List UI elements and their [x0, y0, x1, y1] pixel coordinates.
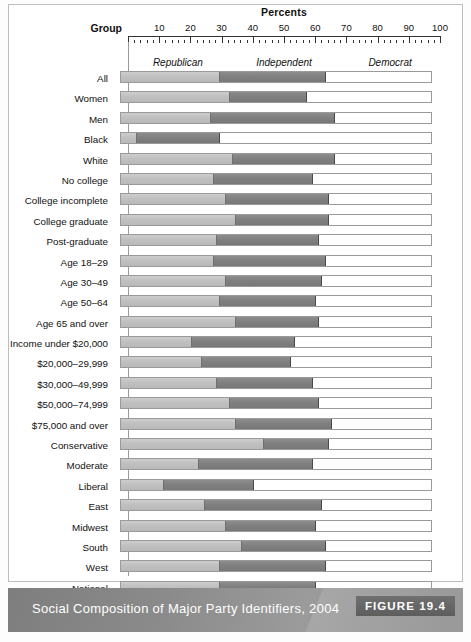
chart-row: Moderate: [0, 457, 455, 477]
stacked-bar: [120, 153, 432, 165]
ruler-tick-38: [247, 40, 248, 43]
ruler-tick-12: [165, 40, 166, 43]
x-tick-label-50: 50: [279, 22, 290, 33]
ruler-tick-16: [178, 40, 179, 43]
bar-segment-republican: [121, 378, 217, 388]
bar-segment-democrat: [220, 133, 431, 143]
bar-segment-republican: [121, 480, 164, 490]
bar-segment-republican: [121, 317, 236, 327]
x-tick-label-10: 10: [154, 22, 165, 33]
bar-segment-independent: [205, 500, 323, 510]
bar-segment-independent: [202, 357, 292, 367]
bar-segment-democrat: [335, 113, 431, 123]
x-tick-label-100: 100: [432, 22, 448, 33]
ruler-tick-18: [184, 40, 185, 43]
chart-row: Income under $20,000: [0, 335, 455, 355]
bar-segment-independent: [217, 378, 313, 388]
chart-row: $30,000–49,999: [0, 376, 455, 396]
bar-segment-democrat: [292, 357, 432, 367]
ruler-tick-14: [172, 40, 173, 43]
ruler-tick-94: [421, 40, 422, 43]
ruler-tick-20: [190, 37, 191, 43]
legend-label-republican: Republican: [153, 57, 203, 68]
ruler-tick-30: [222, 37, 223, 43]
ruler-tick-70: [346, 37, 347, 43]
row-label-23: South: [82, 542, 108, 553]
ruler-tick-6: [147, 40, 148, 43]
ruler-tick-62: [321, 40, 322, 43]
stacked-bar: [120, 91, 432, 103]
stacked-bar: [120, 336, 432, 348]
bar-segment-republican: [121, 561, 220, 571]
bar-segment-democrat: [307, 92, 431, 102]
bar-segment-republican: [121, 521, 226, 531]
chart-row: Black: [0, 131, 455, 151]
ruler-tick-10: [159, 37, 160, 43]
bar-segment-republican: [121, 215, 236, 225]
x-tick-label-60: 60: [310, 22, 321, 33]
row-label-13: Income under $20,000: [10, 338, 108, 349]
row-label-9: Age 18–29: [61, 257, 108, 268]
ruler-tick-64: [328, 40, 329, 43]
stacked-bar: [120, 418, 432, 430]
bar-segment-independent: [220, 561, 325, 571]
bar-segment-republican: [121, 276, 226, 286]
row-label-16: $50,000–74,999: [37, 399, 108, 410]
stacked-bar: [120, 132, 432, 144]
row-label-22: Midwest: [72, 522, 108, 533]
bar-segment-republican: [121, 439, 264, 449]
bar-segment-republican: [121, 256, 214, 266]
ruler-tick-34: [234, 40, 235, 43]
row-label-21: East: [88, 501, 108, 512]
ruler-tick-72: [353, 40, 354, 43]
stacked-bar: [120, 458, 432, 470]
chart-row: Women: [0, 90, 455, 110]
ruler-tick-56: [303, 40, 304, 43]
bar-segment-republican: [121, 113, 211, 123]
bar-segment-independent: [192, 337, 294, 347]
bar-segment-republican: [121, 357, 202, 367]
bar-segment-independent: [226, 521, 316, 531]
row-label-15: $30,000–49,999: [37, 379, 108, 390]
bar-segment-democrat: [335, 154, 431, 164]
ruler-tick-96: [428, 40, 429, 43]
chart-row: White: [0, 152, 455, 172]
chart-row: Age 50–64: [0, 294, 455, 314]
ruler-tick-36: [240, 40, 241, 43]
bar-segment-republican: [121, 419, 236, 429]
stacked-bar: [120, 397, 432, 409]
bar-segment-democrat: [313, 378, 431, 388]
ruler-tick-90: [409, 37, 410, 43]
axis-title-percents: Percents: [128, 6, 440, 18]
bar-segment-independent: [164, 480, 254, 490]
row-label-19: Moderate: [67, 460, 108, 471]
bar-segment-republican: [121, 92, 230, 102]
bar-segment-democrat: [313, 459, 431, 469]
ruler-tick-98: [434, 40, 435, 43]
bar-segment-democrat: [319, 235, 431, 245]
chart-row: $20,000–29,999: [0, 355, 455, 375]
stacked-bar: [120, 356, 432, 368]
figure-number-badge: FIGURE 19.4: [356, 596, 455, 616]
ruler-tick-32: [228, 40, 229, 43]
legend-label-independent: Independent: [256, 57, 312, 68]
bar-segment-independent: [226, 194, 328, 204]
stacked-bar: [120, 295, 432, 307]
bar-segment-republican: [121, 72, 220, 82]
ruler-tick-28: [215, 40, 216, 43]
bar-segment-republican: [121, 296, 220, 306]
stacked-bar: [120, 234, 432, 246]
bar-segment-republican: [121, 235, 217, 245]
axis-title-group: Group: [40, 22, 122, 34]
bar-segment-democrat: [319, 317, 431, 327]
ruler-tick-52: [290, 40, 291, 43]
chart-rows: AllWomenMenBlackWhiteNo collegeCollege i…: [0, 70, 455, 600]
bar-segment-independent: [236, 419, 332, 429]
bar-segment-democrat: [326, 541, 431, 551]
row-label-10: Age 30–49: [61, 277, 108, 288]
bar-segment-independent: [230, 398, 320, 408]
stacked-bar: [120, 275, 432, 287]
bar-segment-democrat: [326, 72, 431, 82]
bar-segment-democrat: [254, 480, 431, 490]
bar-segment-republican: [121, 398, 230, 408]
